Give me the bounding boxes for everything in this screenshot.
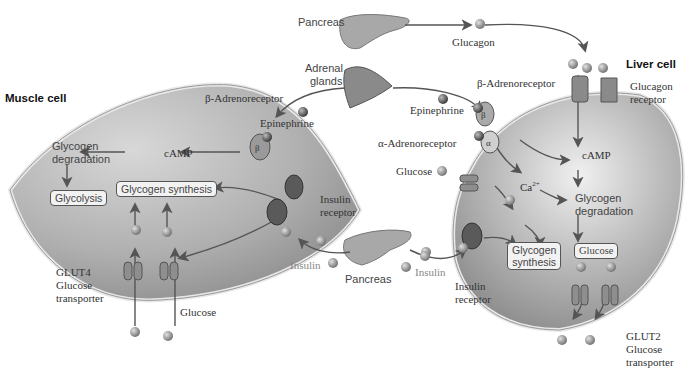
adrenal-gland-icon [344, 67, 392, 108]
muscle-insulin-receptor-2: receptor [320, 206, 356, 218]
muscle-cell-title: Muscle cell [5, 92, 66, 104]
muscle-camp-label: cAMP [164, 147, 193, 159]
muscle-glucose-label: Glucose [180, 306, 216, 318]
glut2-label-3: transporter [626, 356, 674, 368]
muscle-beta-symbol: β [255, 142, 260, 154]
epinephrine-left-label: Epinephrine [260, 117, 314, 129]
liver-cell-title: Liver cell [626, 58, 676, 70]
liver-glycogen-synthesis-1: Glycogen [512, 244, 556, 256]
glut4-label-1: GLUT4 [56, 266, 91, 278]
adrenal-label-1: Adrenal [305, 62, 343, 74]
pancreas-top-label: Pancreas [298, 16, 344, 28]
muscle-glycogen-degradation-1: Glycogen [52, 140, 98, 152]
liver-glycogen-degradation-1: Glycogen [575, 192, 621, 204]
liver-insulin-receptor-1: Insulin [455, 280, 486, 292]
muscle-glycogen-degradation-2: degradation [52, 153, 110, 165]
insulin-left-label: Insulin [290, 259, 321, 271]
liver-beta-receptor-label: β-Adrenoreceptor [477, 77, 555, 89]
pancreas-bottom-icon [344, 230, 411, 265]
pancreas-top-icon [340, 15, 409, 49]
epinephrine-right-label: Epinephrine [410, 104, 464, 116]
glucose-metabolism-diagram: Pancreas Glucagon Adrenal glands Epineph… [0, 0, 691, 371]
muscle-glycogen-synthesis-box: Glycogen synthesis [116, 181, 217, 197]
liver-glucose-in-label: Glucose [396, 165, 432, 177]
glut4-label-3: transporter [56, 292, 104, 304]
insulin-right-label: Insulin [415, 266, 446, 278]
pancreas-bottom-label: Pancreas [345, 273, 391, 285]
calcium-text: Ca [520, 181, 532, 193]
liver-beta-symbol: β [481, 109, 486, 121]
glucagon-receptor-2: receptor [630, 93, 666, 105]
liver-glucose-box: Glucose [574, 243, 618, 259]
glut4-label-2: Glucose [56, 279, 92, 291]
adrenal-label-2: glands [310, 75, 342, 87]
glucagon-receptor-1: Glucagon [630, 80, 673, 92]
liver-insulin-receptor-2: receptor [455, 293, 491, 305]
glut2-label-1: GLUT2 [626, 330, 661, 342]
liver-glycogen-synthesis-2: synthesis [512, 256, 556, 268]
muscle-beta-receptor-label: β-Adrenoreceptor [205, 92, 283, 104]
liver-glycogen-degradation-2: degradation [575, 205, 633, 217]
glut2-label-2: Glucose [626, 343, 662, 355]
liver-alpha-receptor-label: α-Adrenoreceptor [378, 137, 456, 149]
calcium-superscript: 2+ [532, 180, 539, 188]
glucagon-label: Glucagon [452, 36, 495, 48]
muscle-insulin-receptor-1: Insulin [320, 193, 351, 205]
liver-camp-label: cAMP [582, 149, 611, 161]
diagram-graphics [0, 0, 691, 371]
calcium-label: Ca2+ [520, 178, 540, 193]
muscle-glycolysis-box: Glycolysis [50, 190, 107, 206]
liver-glycogen-synthesis-box: Glycogensynthesis [507, 242, 561, 270]
liver-alpha-symbol: α [486, 137, 491, 149]
